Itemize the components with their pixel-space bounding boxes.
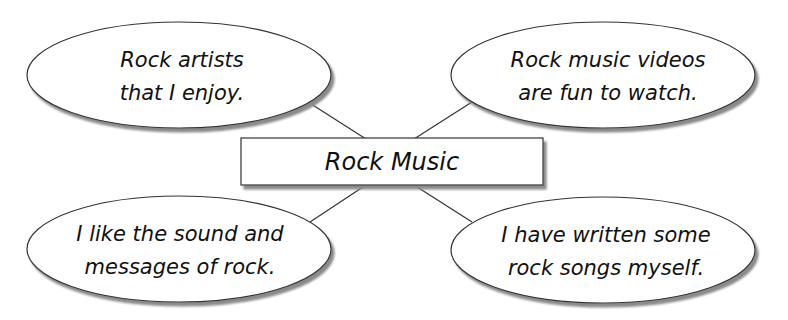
bubble-line-1: Rock artists <box>120 48 244 72</box>
bubble-line-2: are fun to watch. <box>518 81 697 105</box>
bubble-top-left: Rock artists that I enjoy. <box>27 22 331 128</box>
center-topic-label: Rock Music <box>325 148 459 176</box>
connector-bottom-right <box>414 185 472 222</box>
bubble-line-2: rock songs myself. <box>508 256 704 280</box>
center-topic-box: Rock Music <box>241 138 543 185</box>
connector-top-right <box>414 102 472 139</box>
bubble-shape <box>451 197 755 303</box>
bubble-shape <box>451 22 755 128</box>
bubble-bottom-right: I have written some rock songs myself. <box>451 197 755 303</box>
bubble-line-1: I like the sound and <box>76 222 284 246</box>
bubble-shape <box>27 22 331 128</box>
bubble-line-1: Rock music videos <box>511 48 706 72</box>
bubble-line-2: messages of rock. <box>85 255 276 279</box>
idea-web-diagram: Rock artists that I enjoy. Rock music vi… <box>0 0 788 320</box>
bubble-top-right: Rock music videos are fun to watch. <box>451 22 755 128</box>
bubble-shape <box>27 196 331 302</box>
connector-bottom-left <box>310 185 366 222</box>
bubble-line-1: I have written some <box>501 223 710 247</box>
connector-top-left <box>308 102 366 139</box>
bubble-line-2: that I enjoy. <box>120 81 245 105</box>
bubble-bottom-left: I like the sound and messages of rock. <box>27 196 331 302</box>
